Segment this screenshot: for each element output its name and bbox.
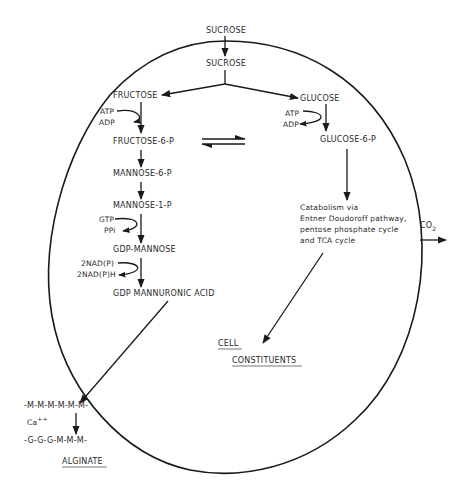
atp-label-glucose: ATP (285, 109, 300, 118)
catabolism-text: Catabolism via Entner Doudoroff pathway,… (300, 203, 407, 245)
alginate-pathway-diagram: SUCROSE SUCROSE FRUCTOSE ATP ADP FRUCTOS… (0, 0, 469, 491)
equilibrium-arrows (201, 135, 246, 148)
alginate-chain-bottom: -G-G-G-M-M-M- (24, 436, 87, 445)
nad-cofactor-arrow (118, 263, 138, 275)
fructose-label: FRUCTOSE (113, 91, 158, 100)
constituents-label: CONSTITUENTS (232, 356, 296, 365)
adp-label-glucose: ADP (283, 120, 299, 129)
sucrose-internal-label: SUCROSE (206, 59, 246, 68)
calcium-ion-label: Ca++ (27, 415, 48, 427)
mannose-6-p-label: MANNOSE-6-P (113, 169, 172, 178)
alginate-label: ALGINATE (62, 457, 103, 466)
alginate-chain-top: -M-M-M-M-M-M- (24, 401, 88, 410)
svg-text:and TCA cycle: and TCA cycle (300, 236, 356, 245)
gtp-label: GTP (99, 215, 115, 224)
svg-text:Catabolism via: Catabolism via (300, 203, 358, 212)
svg-text:pentose phosphate cycle: pentose phosphate cycle (300, 225, 399, 234)
nadp-label: 2NAD(P) (81, 259, 114, 268)
co2-label: CO2 (420, 221, 436, 232)
mannose-1-p-label: MANNOSE-1-P (113, 201, 172, 210)
ppi-label: PPi (104, 226, 116, 235)
fructose-6-p-label: FRUCTOSE-6-P (113, 137, 174, 146)
glucose-label: GLUCOSE (300, 94, 340, 103)
sucrose-external-label: SUCROSE (206, 26, 246, 35)
arrow-to-glucose (225, 84, 298, 98)
nadph-label: 2NAD(P)H (77, 270, 116, 279)
gdp-mannuronic-acid-label: GDP MANNURONIC ACID (113, 289, 215, 298)
glucose-atp-adp-arrow (300, 111, 321, 124)
svg-text:Entner Doudoroff pathway,: Entner Doudoroff pathway, (300, 214, 407, 223)
atp-adp-cofactor-arrow (117, 111, 140, 122)
arrow-catabolism-to-constituents (263, 253, 323, 343)
adp-label-fructose: ADP (99, 118, 115, 127)
gtp-ppi-cofactor-arrow (115, 219, 137, 231)
arrow-gdpma-to-alginate (80, 301, 168, 403)
cell-boundary (49, 41, 422, 473)
cell-label: CELL (218, 339, 239, 348)
atp-label-fructose: ATP (100, 107, 115, 116)
glucose-6-p-label: GLUCOSE-6-P (320, 135, 376, 144)
arrow-to-fructose (162, 84, 225, 95)
gdp-mannose-label: GDP-MANNOSE (113, 245, 176, 254)
